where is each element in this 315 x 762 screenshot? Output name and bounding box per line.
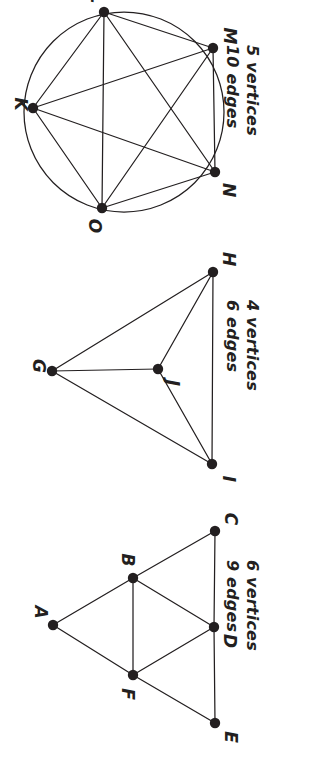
caption-k4-vertices: 4 vertices bbox=[242, 300, 262, 391]
graph-edge bbox=[102, 48, 213, 208]
k5-graph-drawing: KLMNO bbox=[0, 0, 315, 250]
vertex-label: C bbox=[221, 513, 241, 526]
graph-edge bbox=[212, 272, 213, 464]
graph-edge bbox=[33, 108, 102, 208]
caption-six-edges: 9 edges bbox=[221, 560, 241, 651]
graph-edge bbox=[52, 272, 213, 371]
caption-k5-edges: 10 edges bbox=[221, 45, 241, 136]
graph-vertex bbox=[209, 622, 219, 632]
graph-edge bbox=[52, 369, 158, 371]
k5-edge-layer bbox=[33, 12, 215, 208]
graph-vertex bbox=[153, 364, 163, 374]
graph-edge bbox=[33, 108, 215, 172]
graph-edge bbox=[53, 578, 133, 625]
k4-vertex-layer bbox=[47, 267, 218, 469]
vertex-label: G bbox=[29, 359, 49, 373]
vertex-label: N bbox=[219, 183, 239, 197]
vertex-label: L bbox=[87, 0, 107, 3]
graph-vertex bbox=[208, 267, 218, 277]
vertex-label: I bbox=[219, 476, 239, 482]
k4-graph-drawing: GHIJ bbox=[0, 245, 315, 490]
graph-panel-k5: KLMNO bbox=[0, 0, 315, 250]
graph-panel-six-vertex: ABCDEF bbox=[0, 490, 315, 762]
caption-k4-edges: 6 edges bbox=[221, 300, 241, 391]
k4-edge-layer bbox=[52, 272, 213, 464]
vertex-label: O bbox=[85, 219, 105, 233]
graph-edge bbox=[33, 12, 104, 108]
graph-vertex bbox=[48, 620, 58, 630]
graph-edge bbox=[214, 531, 215, 627]
vertex-label: B bbox=[118, 554, 138, 567]
graph-edge bbox=[133, 675, 215, 723]
graph-edge bbox=[213, 48, 215, 172]
graph-vertex bbox=[210, 167, 220, 177]
vertex-label: A bbox=[31, 603, 51, 618]
graph-vertex bbox=[210, 526, 220, 536]
graph-edge bbox=[102, 172, 215, 208]
caption-six-vertex: 6 vertices 9 edges bbox=[221, 560, 262, 651]
graph-edge bbox=[133, 627, 214, 675]
graph-vertex bbox=[207, 459, 217, 469]
vertex-label: J bbox=[163, 377, 183, 386]
graph-edge bbox=[133, 531, 215, 578]
six-vertex-graph-drawing: ABCDEF bbox=[0, 490, 315, 762]
graph-vertex bbox=[97, 203, 107, 213]
vertex-label: F bbox=[118, 688, 138, 700]
graph-vertex bbox=[208, 43, 218, 53]
graph-edge bbox=[158, 272, 213, 369]
graph-edge bbox=[52, 371, 212, 464]
vertex-label: M bbox=[220, 28, 240, 45]
graph-edge bbox=[133, 578, 214, 627]
k4-vertex-label-layer: GHIJ bbox=[29, 252, 239, 482]
caption-six-vertices: 6 vertices bbox=[242, 560, 262, 651]
graph-figure-page: KLMNO GHIJ ABCDEF 5 vertices 10 edges 4 … bbox=[0, 0, 315, 762]
vertex-label: E bbox=[221, 731, 241, 743]
graph-panel-k4: GHIJ bbox=[0, 245, 315, 490]
graph-vertex bbox=[128, 573, 138, 583]
vertex-label: K bbox=[11, 97, 31, 112]
graph-edge bbox=[33, 48, 213, 108]
k5-vertex-label-layer: KLMNO bbox=[11, 0, 240, 233]
caption-k4: 4 vertices 6 edges bbox=[221, 300, 262, 391]
graph-edge bbox=[104, 12, 215, 172]
graph-vertex bbox=[99, 7, 109, 17]
graph-edge bbox=[53, 625, 133, 675]
caption-k5-vertices: 5 vertices bbox=[242, 45, 262, 136]
graph-edge bbox=[214, 627, 215, 723]
graph-edge bbox=[102, 12, 104, 208]
caption-k5: 5 vertices 10 edges bbox=[221, 45, 262, 136]
graph-edge bbox=[104, 12, 213, 48]
graph-vertex bbox=[128, 670, 138, 680]
vertex-label: H bbox=[219, 252, 239, 266]
graph-vertex bbox=[210, 718, 220, 728]
